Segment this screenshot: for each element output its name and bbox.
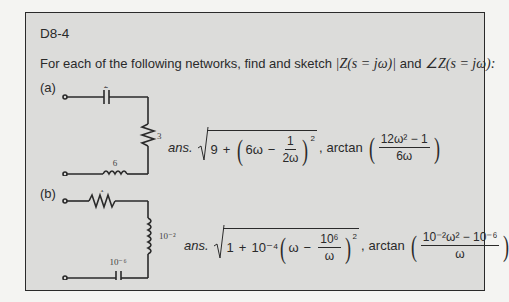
arctan-label: arctan bbox=[369, 238, 405, 253]
answer-b: ans. 1 + 10⁻⁴ ( ω − 10⁶ ω )2 , arctan ( … bbox=[184, 228, 509, 263]
resistor-b-value: 1 bbox=[100, 190, 105, 194]
capacitor-b-value: 10⁻⁶ bbox=[109, 257, 126, 267]
circuit-b: 1 10⁻² 10⁻⁶ bbox=[55, 190, 185, 280]
answer-a: ans. 9 + ( 6ω − 1 2ω )2 , arctan ( 12ω² … bbox=[168, 130, 442, 165]
inductor-b-value: 10⁻² bbox=[159, 231, 176, 241]
answer-a-magnitude: 9 + ( 6ω − 1 2ω )2 bbox=[197, 130, 317, 165]
and-text: and bbox=[400, 56, 422, 71]
angle-expression: ∠Z(s = jω): bbox=[425, 56, 495, 71]
fraction: 10⁶ ω bbox=[318, 232, 340, 263]
answer-b-prefix: ans. bbox=[184, 238, 209, 253]
phase-fraction-a: 12ω² − 1 6ω bbox=[379, 132, 430, 163]
fraction: 1 2ω bbox=[282, 134, 298, 165]
answer-b-magnitude: 1 + 10⁻⁴ ( ω − 10⁶ ω )2 bbox=[213, 228, 359, 263]
prompt-text: For each of the following networks, find… bbox=[40, 56, 332, 71]
phase-fraction-b: 10⁻²ω² − 10⁻⁶ ω bbox=[421, 230, 500, 261]
capacitor-a-value: 2 bbox=[104, 86, 109, 90]
radical-icon bbox=[197, 126, 209, 162]
part-a-label: (a) bbox=[40, 80, 56, 95]
arctan-label: arctan bbox=[327, 140, 363, 155]
magnitude-expression: |Z(s = jω)| bbox=[336, 56, 396, 71]
problem-id: D8-4 bbox=[40, 26, 69, 41]
problem-prompt: For each of the following networks, find… bbox=[40, 55, 495, 72]
inductor-a-value: 6 bbox=[113, 158, 118, 168]
resistor-a-value: 3 bbox=[157, 131, 162, 141]
circuit-a: 2 3 6 bbox=[55, 86, 175, 176]
radical-icon bbox=[213, 224, 225, 260]
answer-a-prefix: ans. bbox=[168, 140, 193, 155]
part-b-label: (b) bbox=[40, 186, 56, 201]
